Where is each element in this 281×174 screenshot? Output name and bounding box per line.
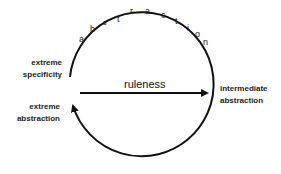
- arc-letter: s: [103, 19, 107, 26]
- label-line: abstraction: [6, 113, 60, 125]
- abstraction-cycle-diagram: a b s t r a c t i o n ruleness extreme s…: [0, 0, 281, 174]
- label-line: abstraction: [220, 95, 268, 107]
- arc-letter: n: [203, 37, 208, 47]
- label-line: extreme: [6, 101, 60, 113]
- arc-letter: o: [195, 29, 200, 39]
- ruleness-label: ruleness: [124, 78, 166, 90]
- arc-letter: b: [90, 24, 95, 34]
- arc-letter: i: [187, 23, 189, 33]
- arc-letter: a: [145, 6, 150, 16]
- label-line: extreme: [10, 57, 62, 69]
- label-line: specificity: [10, 69, 62, 81]
- arc-letter: r: [130, 6, 133, 16]
- extreme-specificity-label: extreme specificity: [10, 57, 62, 81]
- arc-letter: a: [79, 34, 84, 44]
- label-line: intermediate: [220, 83, 268, 95]
- extreme-abstraction-label: extreme abstraction: [6, 101, 60, 125]
- arc-letter: c: [161, 10, 166, 20]
- intermediate-abstraction-label: intermediate abstraction: [220, 83, 268, 107]
